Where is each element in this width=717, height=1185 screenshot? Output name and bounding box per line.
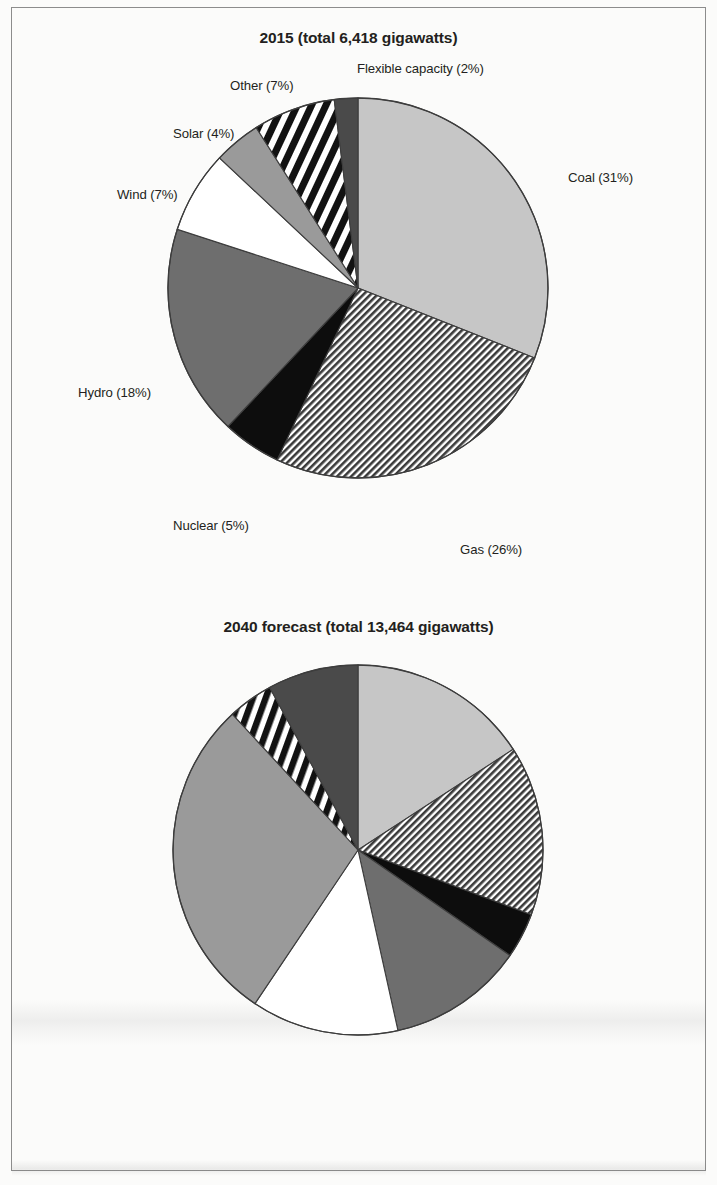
label-solar: Solar (4%) xyxy=(173,126,234,141)
chart-title-2015: 2015 (total 6,418 gigawatts) xyxy=(0,29,717,47)
label-other: Other (7%) xyxy=(230,78,294,93)
label-coal: Coal (31%) xyxy=(568,170,633,185)
pie-graphic-2040 xyxy=(163,655,553,1045)
label-nuclear: Nuclear (5%) xyxy=(173,518,249,533)
pie-chart-2015: 2015 (total 6,418 gigawatts) Flexible xyxy=(0,0,717,600)
label-gas: Gas (26%) xyxy=(460,542,522,557)
pie-svg-2015 xyxy=(158,88,558,488)
label-hydro: Hydro (18%) xyxy=(78,385,151,400)
pie-slices-2015 xyxy=(168,98,548,478)
pie-graphic-2015 xyxy=(158,88,558,488)
pie-svg-2040 xyxy=(163,655,553,1045)
figure-page: 2015 (total 6,418 gigawatts) Flexible xyxy=(0,0,717,1185)
chart-title-2040: 2040 forecast (total 13,464 gigawatts) xyxy=(0,618,717,636)
label-wind: Wind (7%) xyxy=(117,187,178,202)
pie-chart-2040-forecast: 2040 forecast (total 13,464 gigawatts) xyxy=(0,595,717,1175)
pie-slices-2040 xyxy=(173,665,543,1035)
label-flexible-capacity: Flexible capacity (2%) xyxy=(357,61,484,76)
